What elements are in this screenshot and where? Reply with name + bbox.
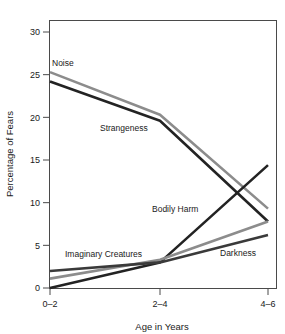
y-tick-label-10: 10 [30,198,40,208]
y-tick-label-0: 0 [35,283,40,293]
x-tick-label-2: 4–6 [260,299,275,309]
series-label-noise: Noise [52,58,74,68]
series-label-bodily-harm: Bodily Harm [152,204,198,214]
series-annotation-group: NoiseStrangenessBodily HarmImaginary Cre… [52,58,256,259]
y-tick-label-5: 5 [35,241,40,251]
x-tick-label-1: 2–4 [152,299,167,309]
x-tick-marks [50,288,268,295]
y-axis-title: Percentage of Fears [4,111,15,197]
y-tick-label-25: 25 [30,70,40,80]
chart-svg: 051015202530 0–22–44–6 NoiseStrangenessB… [0,0,285,334]
y-tick-label-15: 15 [30,155,40,165]
y-tick-label-20: 20 [30,113,40,123]
x-tick-labels: 0–22–44–6 [42,299,275,309]
series-line-strangeness [50,81,268,221]
y-tick-marks [43,32,50,288]
x-tick-label-0: 0–2 [42,299,57,309]
series-label-strangeness: Strangeness [100,123,148,133]
y-tick-label-30: 30 [30,27,40,37]
series-label-darkness: Darkness [220,248,256,258]
x-axis-title: Age in Years [135,321,189,332]
y-tick-labels: 051015202530 [30,27,40,293]
fears-by-age-line-chart: 051015202530 0–22–44–6 NoiseStrangenessB… [0,0,285,334]
series-label-imaginary-creatures: Imaginary Creatures [65,249,142,259]
